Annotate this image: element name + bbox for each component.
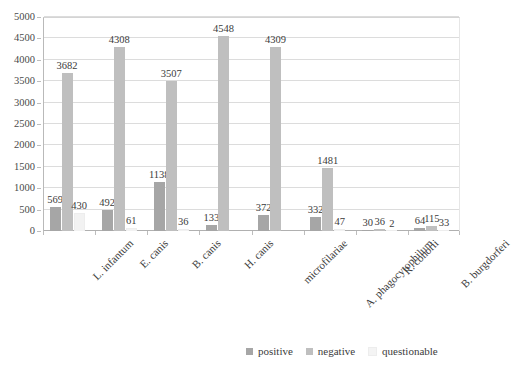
y-tick-mark: [37, 17, 41, 18]
bar-negative: [114, 47, 125, 231]
y-tick-mark: [37, 81, 41, 82]
bar-value-label: 33: [429, 217, 459, 228]
bar-group: 30362: [356, 17, 408, 231]
legend: positivenegativequestionable: [246, 343, 451, 359]
x-category-label: E. canis: [137, 237, 170, 270]
bar-group: 6411533: [408, 17, 460, 231]
y-tick-label: 4500: [14, 33, 35, 43]
x-category-label: H. canis: [242, 237, 276, 271]
bar-negative: [166, 81, 177, 231]
bar-positive: [154, 182, 165, 231]
bar-groups: 5693682430492430861113835073613345483724…: [43, 17, 460, 231]
bar-value-label: 36: [168, 216, 198, 227]
bar-group: 1334548: [199, 17, 251, 231]
bar-positive: [102, 210, 113, 231]
y-tick-label: 1500: [14, 162, 35, 172]
y-tick-label: 500: [19, 205, 35, 215]
y-tick-mark: [37, 124, 41, 125]
bar-value-label: 4308: [104, 34, 134, 45]
y-tick-mark: [37, 188, 41, 189]
x-category-label: L. infantum: [90, 237, 135, 282]
legend-swatch-negative: [306, 348, 313, 355]
y-tick-mark: [37, 145, 41, 146]
y-tick-mark: [37, 60, 41, 61]
legend-label: negative: [318, 346, 355, 357]
x-category-label: B. canis: [190, 237, 224, 271]
y-axis: 5000450040003500300025002000150010005000: [0, 17, 41, 231]
y-tick-label: 3500: [14, 76, 35, 86]
bar-value-label: 4548: [208, 23, 238, 34]
legend-label: questionable: [382, 346, 438, 357]
bar-value-label: 47: [325, 216, 355, 227]
bar-group: 3724309: [252, 17, 304, 231]
y-tick-label: 4000: [14, 55, 35, 65]
bar-value-label: 4309: [261, 34, 291, 45]
bar-group: 1138350736: [147, 17, 199, 231]
y-tick-label: 3000: [14, 98, 35, 108]
legend-swatch-positive: [246, 348, 253, 355]
y-tick-mark: [37, 231, 41, 232]
y-tick-mark: [37, 167, 41, 168]
legend-label: positive: [258, 346, 293, 357]
bar-positive: [310, 217, 321, 231]
bar-group: 5693682430: [43, 17, 95, 231]
bar-group: 332148147: [304, 17, 356, 231]
bar-value-label: 430: [64, 200, 94, 211]
bar-questionable: [74, 213, 85, 231]
y-tick-label: 1000: [14, 183, 35, 193]
bar-value-label: 2: [377, 218, 407, 229]
bar-value-label: 3682: [52, 60, 82, 71]
x-category-label: microfilariae: [300, 237, 349, 286]
bar-value-label: 1481: [313, 155, 343, 166]
legend-item[interactable]: positive: [246, 346, 293, 357]
bar-positive: [258, 215, 269, 231]
bar-value-label: 3507: [156, 68, 186, 79]
y-tick-mark: [37, 210, 41, 211]
y-tick-label: 5000: [14, 12, 35, 22]
y-tick-mark: [37, 103, 41, 104]
bar-negative: [218, 36, 229, 231]
y-tick-label: 2500: [14, 119, 35, 129]
bar-value-label: 61: [116, 215, 146, 226]
y-tick-mark: [37, 38, 41, 39]
bar-positive: [50, 207, 61, 231]
legend-item[interactable]: negative: [306, 346, 355, 357]
x-category-label: B. burgdorferi: [458, 237, 511, 290]
bar-group: 492430861: [95, 17, 147, 231]
legend-item[interactable]: questionable: [368, 346, 438, 357]
y-tick-label: 2000: [14, 140, 35, 150]
legend-swatch-questionable: [368, 347, 377, 356]
x-axis-category-labels: L. infantumE. canisB. canisH. canismicro…: [0, 233, 470, 333]
bar-negative: [270, 47, 281, 231]
